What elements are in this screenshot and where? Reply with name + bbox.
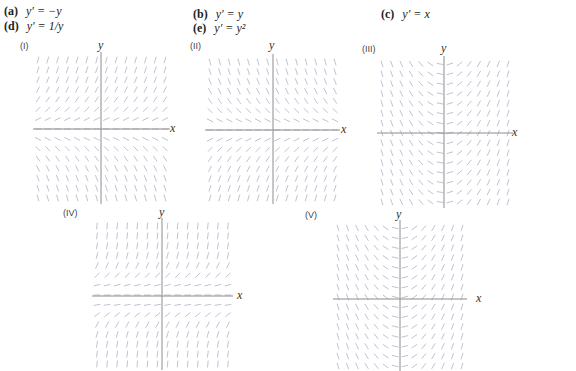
slope-segment xyxy=(313,108,318,113)
slope-segment xyxy=(227,331,229,338)
slope-segment xyxy=(322,138,328,141)
slope-segment xyxy=(104,304,111,305)
slope-segment xyxy=(346,245,348,251)
slope-segment xyxy=(284,138,290,141)
slope-segment xyxy=(47,175,50,181)
slope-segment xyxy=(57,57,59,64)
slope-segment xyxy=(125,175,128,181)
slope-segment xyxy=(217,262,220,268)
slope-segment xyxy=(487,140,490,146)
slope-segment xyxy=(55,118,61,121)
slope-segment xyxy=(374,354,378,359)
slope-segment xyxy=(207,242,208,249)
slope-segment xyxy=(497,120,499,126)
slope-segment xyxy=(164,185,166,192)
slope-segment xyxy=(412,246,418,250)
slope-segment xyxy=(365,353,369,359)
slope-segment xyxy=(442,353,445,359)
slope-segment xyxy=(206,322,209,328)
slope-segment xyxy=(337,235,339,242)
slope-segment xyxy=(392,267,399,269)
slope-segment xyxy=(451,274,453,280)
slope-segment xyxy=(142,118,148,121)
slope-segment xyxy=(391,159,393,165)
slope-segment xyxy=(477,120,480,126)
slope-segment xyxy=(216,322,219,328)
slope-segment xyxy=(177,331,179,338)
slope-segment xyxy=(428,62,434,66)
slope-segment xyxy=(225,304,232,305)
panel-5-y-label: y xyxy=(396,207,401,222)
slope-segment xyxy=(174,284,181,286)
slope-segment xyxy=(236,147,241,152)
slope-segment xyxy=(275,156,279,162)
slope-segment xyxy=(228,88,231,94)
slope-segment xyxy=(422,235,426,240)
slope-segment xyxy=(487,110,490,116)
slope-segment xyxy=(106,262,109,268)
slope-segment xyxy=(104,107,109,112)
slope-segment xyxy=(236,138,242,141)
slope-segment xyxy=(136,331,138,338)
slope-segment xyxy=(37,67,39,74)
slope-segment xyxy=(75,107,80,112)
slope-segment xyxy=(447,122,454,124)
slope-segment xyxy=(66,57,68,64)
slope-segment xyxy=(457,111,462,115)
slope-segment xyxy=(409,71,413,77)
panel-4-y-label: y xyxy=(159,205,164,220)
slope-segment xyxy=(333,147,338,152)
slope-segment xyxy=(215,284,222,286)
slope-segment xyxy=(507,179,509,186)
slope-segment xyxy=(402,326,409,328)
slope-segment xyxy=(412,344,418,348)
slope-segment xyxy=(105,156,109,162)
slope-segment xyxy=(115,175,118,181)
slope-segment xyxy=(218,175,221,181)
slope-segment xyxy=(447,83,454,85)
slope-segment xyxy=(400,120,403,126)
slope-segment xyxy=(305,185,307,191)
slope-segment xyxy=(197,361,198,368)
slope-segment xyxy=(175,313,180,317)
slope-segment xyxy=(74,118,80,121)
slope-segment xyxy=(467,61,471,66)
slope-segment xyxy=(295,88,298,94)
slope-segment xyxy=(115,195,117,202)
slope-segment xyxy=(94,107,99,112)
slope-segment xyxy=(487,71,490,77)
slope-segment xyxy=(246,147,251,152)
slope-field-panel-4 xyxy=(92,218,233,370)
slope-segment xyxy=(285,156,289,162)
slope-segment xyxy=(96,242,97,249)
slope-segment xyxy=(245,138,251,141)
slope-segment xyxy=(402,257,409,259)
slope-segment xyxy=(144,185,146,192)
slope-segment xyxy=(447,63,454,65)
slope-segment xyxy=(225,313,230,317)
slope-segment xyxy=(356,225,359,231)
slope-segment xyxy=(205,273,210,278)
slope-segment xyxy=(333,98,337,104)
slope-segment xyxy=(105,67,107,74)
slope-segment xyxy=(391,90,393,96)
slope-segment xyxy=(225,284,232,286)
slope-segment xyxy=(412,335,418,339)
slope-segment xyxy=(257,59,259,66)
slope-segment xyxy=(163,107,168,112)
slope-segment xyxy=(186,322,189,328)
slope-segment xyxy=(257,166,260,172)
slope-segment xyxy=(164,284,171,286)
slope-segment xyxy=(125,273,130,278)
slope-segment xyxy=(236,108,241,113)
slope-segment xyxy=(226,273,231,278)
slope-segment xyxy=(218,78,221,84)
slope-segment xyxy=(323,108,328,113)
slope-segment xyxy=(257,175,260,181)
slope-segment xyxy=(412,236,418,240)
slope-segment xyxy=(167,361,168,368)
slope-segment xyxy=(432,245,436,251)
slope-segment xyxy=(383,335,389,339)
slope-segment xyxy=(451,225,453,231)
equation-e: (e)y′ = y² xyxy=(193,22,245,34)
